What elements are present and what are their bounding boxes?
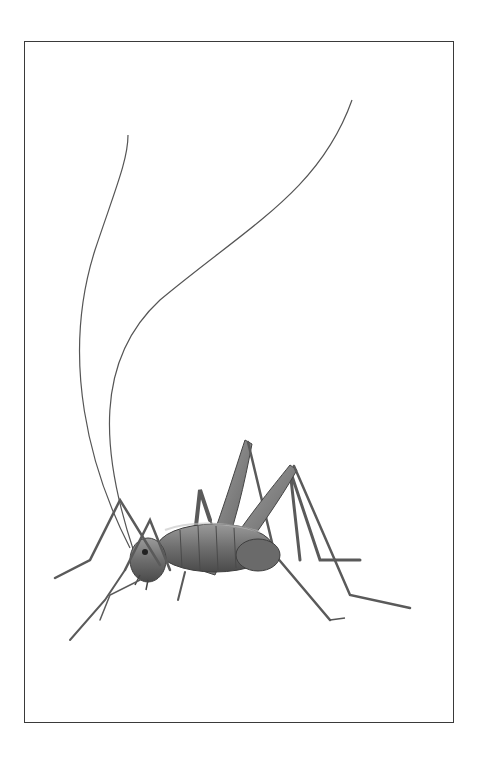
antennae <box>80 100 352 552</box>
front-legs <box>55 500 185 640</box>
cave-cricket-illustration <box>0 0 478 761</box>
cricket-body <box>157 523 280 572</box>
